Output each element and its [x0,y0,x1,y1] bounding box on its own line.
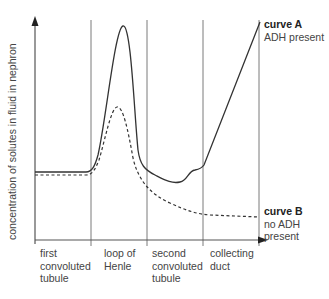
segment-label-line: tubule [152,272,203,285]
curve-a-label: curve A ADH present [264,18,324,43]
segment-label-line: Henle [104,260,136,273]
curve-b-description-line: present [264,230,303,243]
segment-label-line: collecting [210,247,254,260]
segment-label-collecting-duct: collecting duct [210,247,254,272]
curve-b-description-line: no ADH [264,218,303,231]
segment-label-line: second [152,247,203,260]
y-axis-arrow-icon [32,16,39,26]
segment-label-line: convoluted [152,260,203,273]
segment-label-second-convoluted-tubule: second convoluted tubule [152,247,203,285]
curve-a-description: ADH present [264,31,324,44]
segment-label-first-convoluted-tubule: first convoluted tubule [40,247,91,285]
segment-label-loop-of-henle: loop of Henle [104,247,136,272]
segment-label-line: loop of [104,247,136,260]
curve-a-name: curve A [264,18,324,31]
segment-label-line: first [40,247,91,260]
segment-label-line: convoluted [40,260,91,273]
y-axis-label: concentration of solutes in fluid in nep… [6,43,18,240]
curve-b-label: curve B no ADH present [264,205,303,243]
curve-b-name: curve B [264,205,303,218]
segment-label-line: tubule [40,272,91,285]
segment-label-line: duct [210,260,254,273]
